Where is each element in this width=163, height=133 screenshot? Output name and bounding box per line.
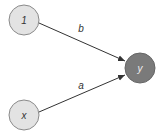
node-label-x: x [21,110,28,121]
edge-one-to-y: b [39,23,125,61]
node-one: 1 [9,5,39,35]
node-label-y: y [137,63,144,74]
edge-x-to-y: a [39,75,125,112]
node-y: y [125,53,155,83]
linear-model-diagram: b a 1 x y [0,0,163,133]
node-label-one: 1 [21,15,27,26]
node-x: x [9,100,39,130]
edge-label-a: a [78,80,84,91]
edge-label-b: b [78,23,84,34]
